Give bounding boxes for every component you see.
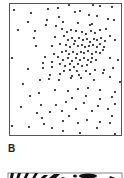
- data-point: [65, 101, 67, 103]
- data-point: [76, 53, 78, 55]
- data-point: [99, 43, 101, 45]
- data-point: [109, 35, 111, 37]
- data-point: [104, 40, 106, 42]
- data-point: [68, 53, 70, 55]
- data-point: [89, 73, 91, 75]
- data-point: [35, 45, 37, 47]
- data-point: [49, 74, 51, 76]
- data-point: [111, 115, 113, 117]
- data-point: [83, 52, 85, 54]
- data-point: [82, 39, 84, 41]
- data-point: [95, 51, 97, 53]
- data-point: [92, 4, 94, 6]
- data-point: [90, 30, 92, 32]
- data-point: [102, 72, 104, 74]
- data-point: [114, 39, 116, 41]
- data-point: [77, 88, 79, 90]
- panel-label-b: B: [8, 144, 15, 154]
- data-point: [63, 70, 65, 72]
- data-point: [57, 7, 59, 9]
- data-point: [71, 37, 73, 39]
- data-point: [68, 4, 70, 6]
- data-point: [84, 46, 86, 48]
- data-point: [13, 9, 15, 11]
- data-point: [80, 77, 82, 79]
- data-point: [30, 12, 32, 14]
- data-point: [109, 76, 111, 78]
- data-point: [67, 39, 69, 41]
- panel-b-image: [0, 168, 124, 178]
- data-point: [88, 14, 90, 16]
- data-point: [47, 8, 49, 10]
- data-point: [29, 95, 31, 97]
- data-point: [20, 106, 22, 108]
- data-point: [85, 33, 87, 35]
- data-point: [89, 41, 91, 43]
- data-point: [86, 119, 88, 121]
- data-point: [85, 95, 87, 97]
- data-point: [58, 79, 60, 81]
- data-point: [17, 29, 19, 31]
- data-point: [96, 15, 98, 17]
- data-point: [90, 61, 92, 63]
- data-point: [109, 122, 111, 124]
- data-point: [99, 89, 101, 91]
- data-point: [99, 98, 101, 100]
- data-point: [88, 45, 90, 47]
- data-point: [74, 40, 76, 42]
- data-point: [73, 66, 75, 68]
- data-point: [11, 57, 13, 59]
- data-point: [71, 60, 73, 62]
- data-point: [100, 37, 102, 39]
- data-point: [94, 32, 96, 34]
- data-point: [64, 65, 66, 67]
- data-point: [76, 70, 78, 72]
- data-point: [22, 83, 24, 85]
- data-point: [51, 61, 53, 63]
- data-point: [69, 46, 71, 48]
- data-point: [99, 121, 101, 123]
- data-point: [58, 16, 60, 18]
- data-point: [114, 133, 116, 135]
- data-point: [69, 69, 71, 71]
- data-point: [33, 37, 35, 39]
- data-point: [46, 19, 48, 21]
- data-point: [65, 44, 67, 46]
- data-point: [49, 111, 51, 113]
- data-point: [63, 35, 65, 37]
- data-point: [92, 44, 94, 46]
- data-point: [54, 89, 56, 91]
- data-point: [85, 70, 87, 72]
- data-point: [41, 117, 43, 119]
- data-point: [112, 67, 114, 69]
- data-point: [28, 126, 30, 128]
- data-point: [61, 28, 63, 30]
- data-point: [79, 10, 81, 12]
- data-point: [27, 68, 29, 70]
- data-point: [109, 57, 111, 59]
- data-point: [77, 45, 79, 47]
- data-point: [11, 125, 13, 127]
- data-point: [62, 21, 64, 23]
- data-point: [71, 75, 73, 77]
- data-point: [59, 63, 61, 65]
- data-point: [79, 59, 81, 61]
- data-point: [59, 73, 61, 75]
- data-point: [87, 50, 89, 52]
- data-point: [117, 59, 119, 61]
- data-point: [93, 38, 95, 40]
- data-point: [86, 64, 88, 66]
- data-point: [96, 46, 98, 48]
- data-point: [107, 18, 109, 20]
- data-point: [96, 127, 98, 129]
- data-point: [107, 108, 109, 110]
- data-point: [91, 23, 93, 25]
- data-point: [48, 78, 50, 80]
- data-point: [99, 5, 101, 7]
- data-point: [36, 112, 38, 114]
- data-point: [39, 79, 41, 81]
- data-point: [70, 77, 72, 79]
- data-point: [94, 69, 96, 71]
- data-point: [102, 49, 104, 51]
- data-point: [73, 43, 75, 45]
